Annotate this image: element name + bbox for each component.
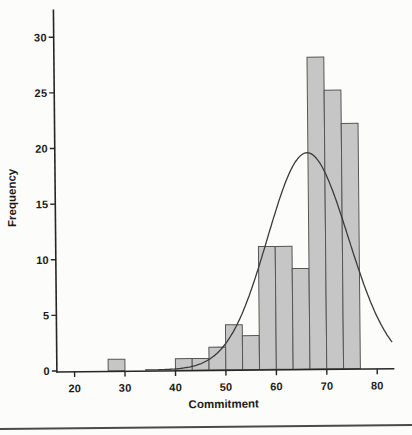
histogram-bar — [324, 90, 343, 369]
scanned-page: 05101520253020304050607080 Frequency Com… — [0, 0, 412, 435]
y-tick-label: 0 — [44, 365, 50, 377]
histogram-bar — [258, 246, 276, 369]
x-tick-label: 40 — [169, 381, 182, 393]
bars-layer — [105, 57, 360, 371]
y-tick-label: 20 — [35, 143, 48, 155]
histogram-bar — [108, 359, 125, 371]
y-tick-label: 10 — [36, 254, 49, 266]
y-tick-label: 25 — [35, 87, 48, 99]
y-tick-label: 5 — [43, 309, 49, 321]
histogram-bar — [242, 336, 259, 370]
x-axis-title: Commitment — [189, 398, 260, 411]
y-tick-label: 30 — [34, 31, 47, 43]
y-axis-title: Frequency — [5, 168, 18, 227]
histogram-bar — [292, 268, 310, 369]
x-tick-label: 50 — [220, 381, 233, 393]
y-tick-label: 15 — [36, 198, 49, 210]
x-tick-label: 80 — [371, 379, 384, 391]
histogram-bar — [275, 246, 293, 369]
x-tick-label: 60 — [270, 380, 283, 392]
x-tick-label: 70 — [321, 380, 334, 392]
histogram-chart: 05101520253020304050607080 Frequency Com… — [0, 0, 412, 435]
x-tick-label: 20 — [68, 382, 81, 394]
x-tick-label: 30 — [119, 382, 132, 394]
y-axis-line — [53, 9, 56, 372]
